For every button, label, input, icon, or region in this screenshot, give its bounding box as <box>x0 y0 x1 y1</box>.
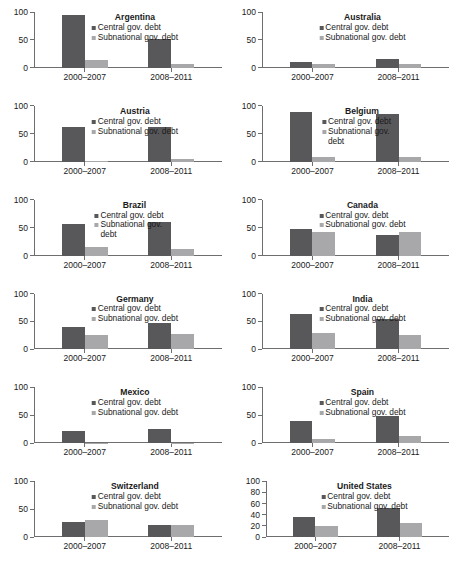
y-tick-label-united-states-5: 100 <box>246 477 260 486</box>
plot-area-united-states: 0204060801002000–20072008–2011United Sta… <box>266 481 449 537</box>
legend-swatch-subnational <box>92 130 96 134</box>
y-tick-label-brazil-2: 100 <box>14 196 28 205</box>
plot-area-india: 0501002000–20072008–2011IndiaCentral gov… <box>262 294 449 350</box>
y-tick-label-australia-0: 0 <box>251 64 256 73</box>
panel-canada: 0501002000–20072008–2011CanadaCentral go… <box>228 188 455 282</box>
y-tick-label-united-states-4: 80 <box>251 489 260 498</box>
bar-brazil-0-subnational <box>85 247 108 256</box>
x-tick-label-belgium-0: 2000–2007 <box>291 167 334 176</box>
legend-label-spain-1: Subnational gov. debt <box>325 408 405 418</box>
legend-label-austria-1: Subnational gov. debt <box>98 127 178 137</box>
legend-item-canada-1: Subnational gov. debt <box>319 220 405 230</box>
bar-switzerland-1-central <box>148 525 171 537</box>
x-tick-label-india-0: 2000–2007 <box>291 354 334 363</box>
plot-area-canada: 0501002000–20072008–2011CanadaCentral go… <box>262 200 449 256</box>
legend-label-australia-1: Subnational gov. debt <box>325 33 405 43</box>
legend-label-brazil-1: Subnational gov. debt <box>100 220 174 240</box>
y-tick-label-switzerland-2: 100 <box>14 477 28 486</box>
bar-australia-0-subnational <box>312 64 335 67</box>
legend-swatch-central <box>94 214 98 218</box>
y-tick-label-india-2: 100 <box>242 290 256 299</box>
x-tick-label-germany-1: 2008–2011 <box>150 354 192 363</box>
bar-united-states-0-subnational <box>315 526 337 537</box>
y-tick-label-united-states-0: 0 <box>255 533 260 542</box>
y-tick-label-spain-1: 50 <box>247 412 256 421</box>
bar-austria-0-central <box>62 127 85 162</box>
legend-item-united-states-1: Subnational gov. debt <box>321 502 407 512</box>
legend-swatch-subnational <box>319 317 323 321</box>
legend-belgium: BelgiumCentral gov. debtSubnational gov.… <box>322 107 402 147</box>
legend-spain: SpainCentral gov. debtSubnational gov. d… <box>319 388 405 418</box>
bar-argentina-1-central <box>148 39 171 68</box>
legend-argentina: ArgentinaCentral gov. debtSubnational go… <box>92 13 178 43</box>
bar-india-1-subnational <box>399 335 422 350</box>
panel-india: 0501002000–20072008–2011IndiaCentral gov… <box>228 282 455 376</box>
bar-canada-0-central <box>290 229 313 256</box>
bar-united-states-0-central <box>293 517 315 537</box>
plot-area-spain: 0501002000–20072008–2011SpainCentral gov… <box>262 387 449 443</box>
legend-item-australia-1: Subnational gov. debt <box>319 33 405 43</box>
bar-spain-0-central <box>290 421 313 443</box>
legend-mexico: MexicoCentral gov. debtSubnational gov. … <box>92 388 178 418</box>
legend-swatch-subnational <box>92 317 96 321</box>
y-tick-label-argentina-2: 100 <box>14 8 28 17</box>
y-tick-label-spain-0: 0 <box>251 439 256 448</box>
bar-germany-0-central <box>62 327 85 349</box>
x-tick-label-united-states-0: 2000–2007 <box>294 542 337 551</box>
bar-switzerland-0-subnational <box>85 520 108 537</box>
bar-germany-1-subnational <box>171 334 194 350</box>
x-tick-label-canada-0: 2000–2007 <box>291 261 334 270</box>
bar-spain-0-subnational <box>312 439 335 443</box>
y-tick-label-brazil-1: 50 <box>19 224 28 233</box>
y-tick-label-canada-1: 50 <box>247 224 256 233</box>
x-tick-label-germany-0: 2000–2007 <box>63 354 106 363</box>
legend-switzerland: SwitzerlandCentral gov. debtSubnational … <box>92 482 178 512</box>
y-tick-label-austria-0: 0 <box>23 158 28 167</box>
bar-india-0-central <box>290 314 313 349</box>
bar-belgium-1-subnational <box>399 157 422 162</box>
x-tick-label-austria-1: 2008–2011 <box>150 167 192 176</box>
legend-item-brazil-1: Subnational gov. debt <box>94 220 174 240</box>
legend-swatch-subnational <box>92 36 96 40</box>
bar-argentina-1-subnational <box>171 64 194 67</box>
bar-austria-1-subnational <box>171 159 194 162</box>
panel-united-states: 0204060801002000–20072008–2011United Sta… <box>228 469 455 563</box>
legend-label-switzerland-1: Subnational gov. debt <box>98 502 178 512</box>
x-tick-label-argentina-1: 2008–2011 <box>150 73 192 82</box>
y-tick-label-germany-1: 50 <box>19 318 28 327</box>
y-tick-label-australia-1: 50 <box>247 36 256 45</box>
panel-brazil: 0501002000–20072008–2011BrazilCentral go… <box>0 188 228 282</box>
small-multiples-chart-grid: 0501002000–20072008–2011ArgentinaCentral… <box>0 0 455 563</box>
y-tick-label-switzerland-1: 50 <box>19 505 28 514</box>
bar-brazil-1-subnational <box>171 249 194 256</box>
legend-label-mexico-1: Subnational gov. debt <box>98 408 178 418</box>
x-tick-label-india-1: 2008–2011 <box>378 354 420 363</box>
y-tick-label-mexico-0: 0 <box>23 439 28 448</box>
x-tick-label-switzerland-0: 2000–2007 <box>63 542 106 551</box>
bar-spain-1-subnational <box>399 436 422 443</box>
legend-swatch-central <box>92 26 96 30</box>
legend-swatch-central <box>321 495 325 499</box>
panel-austria: 0501002000–20072008–2011AustriaCentral g… <box>0 94 228 188</box>
y-tick-label-spain-2: 100 <box>242 384 256 393</box>
legend-item-argentina-1: Subnational gov. debt <box>92 33 178 43</box>
legend-germany: GermanyCentral gov. debtSubnational gov.… <box>92 295 178 325</box>
bar-mexico-1-central <box>148 429 171 444</box>
legend-swatch-central <box>92 307 96 311</box>
legend-item-germany-1: Subnational gov. debt <box>92 314 178 324</box>
x-tick-label-mexico-0: 2000–2007 <box>63 448 106 457</box>
y-tick-label-belgium-0: 0 <box>251 158 256 167</box>
bar-australia-0-central <box>290 62 313 68</box>
plot-area-belgium: 0501002000–20072008–2011BelgiumCentral g… <box>262 106 449 162</box>
legend-swatch-subnational <box>92 505 96 509</box>
y-tick-label-switzerland-0: 0 <box>23 533 28 542</box>
legend-label-germany-1: Subnational gov. debt <box>98 314 178 324</box>
legend-swatch-central <box>319 26 323 30</box>
x-tick-label-belgium-1: 2008–2011 <box>378 167 420 176</box>
panel-spain: 0501002000–20072008–2011SpainCentral gov… <box>228 375 455 469</box>
bar-mexico-0-central <box>62 431 85 443</box>
legend-item-belgium-1: Subnational gov. debt <box>322 127 402 147</box>
legend-swatch-subnational <box>92 411 96 415</box>
bar-belgium-0-central <box>290 112 313 162</box>
panel-argentina: 0501002000–20072008–2011ArgentinaCentral… <box>0 0 228 94</box>
